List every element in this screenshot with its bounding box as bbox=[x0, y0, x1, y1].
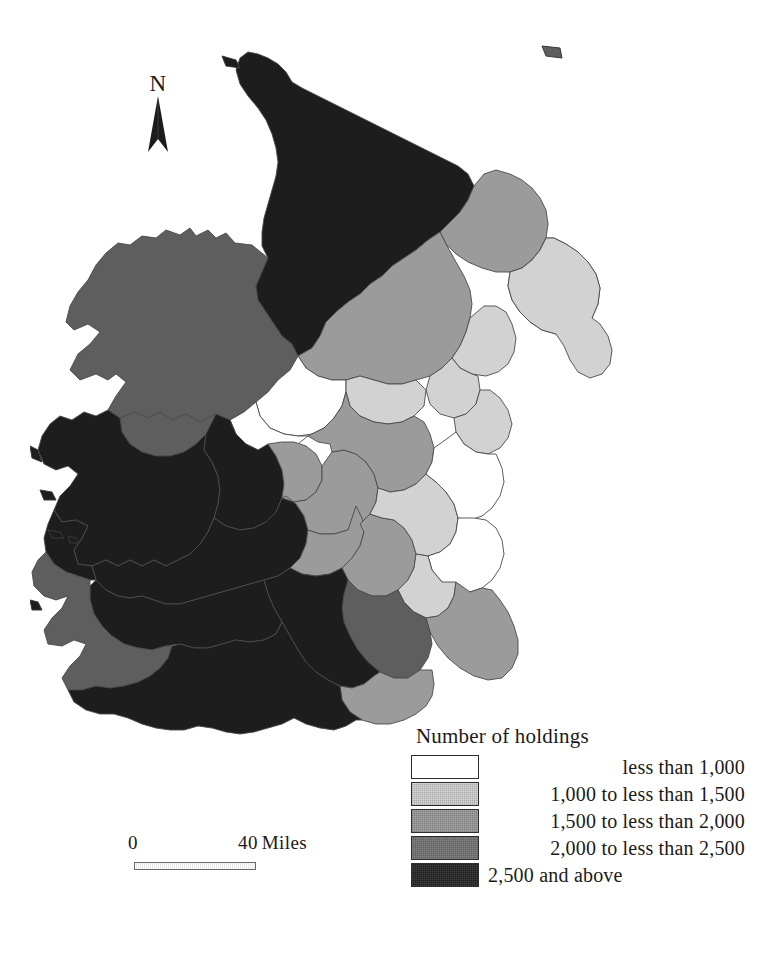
island-rathlin bbox=[542, 46, 562, 58]
legend-title: Number of holdings bbox=[416, 724, 751, 748]
north-arrow: N bbox=[138, 72, 178, 162]
scale-bar-rule bbox=[134, 862, 256, 870]
legend-row: 2,000 to less than 2,500 bbox=[411, 834, 751, 861]
legend-swatch-class-1 bbox=[411, 755, 479, 779]
legend-swatch-class-4 bbox=[411, 836, 479, 860]
legend-swatch-class-5 bbox=[411, 863, 479, 887]
north-arrow-label: N bbox=[138, 72, 178, 95]
legend-row: 2,500 and above bbox=[411, 861, 751, 888]
island-tory bbox=[222, 56, 240, 68]
legend: Number of holdings less than 1,000 1,000… bbox=[411, 724, 751, 912]
island-clare-island bbox=[40, 490, 56, 500]
scale-bar: 0 40Miles bbox=[120, 832, 350, 882]
legend-row: 1,000 to less than 1,500 bbox=[411, 780, 751, 807]
legend-label-class-4: 2,000 to less than 2,500 bbox=[479, 836, 751, 860]
legend-label-class-5: 2,500 and above bbox=[479, 863, 751, 887]
legend-label-class-1: less than 1,000 bbox=[479, 755, 751, 779]
island-valentia bbox=[30, 600, 42, 610]
scale-bar-min-label: 0 bbox=[128, 832, 138, 854]
legend-label-class-2: 1,000 to less than 1,500 bbox=[479, 782, 751, 806]
legend-label-class-3: 1,500 to less than 2,000 bbox=[479, 809, 751, 833]
ireland-county-map bbox=[30, 40, 690, 830]
scale-bar-max-value: 40 bbox=[238, 832, 258, 853]
legend-swatch-class-3 bbox=[411, 809, 479, 833]
legend-rows: less than 1,000 1,000 to less than 1,500… bbox=[411, 753, 751, 888]
scale-bar-units: Miles bbox=[262, 832, 307, 853]
legend-swatch-class-2 bbox=[411, 782, 479, 806]
region-donegal bbox=[66, 228, 298, 422]
north-arrow-icon bbox=[147, 96, 169, 154]
choropleth-map-figure: N 0 40Miles Number of holdings less than… bbox=[0, 0, 781, 977]
scale-bar-max-label: 40Miles bbox=[238, 832, 307, 854]
legend-row: less than 1,000 bbox=[411, 753, 751, 780]
legend-row: 1,500 to less than 2,000 bbox=[411, 807, 751, 834]
